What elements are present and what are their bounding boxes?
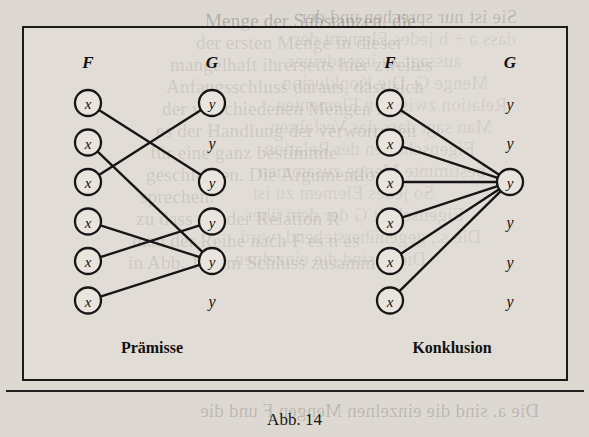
figure-caption: Abb. 14 [0,410,589,430]
figure-frame [22,26,568,381]
horizontal-rule [6,390,584,392]
bleed-text-line: Sie ist nur sprechen und der [300,6,517,28]
